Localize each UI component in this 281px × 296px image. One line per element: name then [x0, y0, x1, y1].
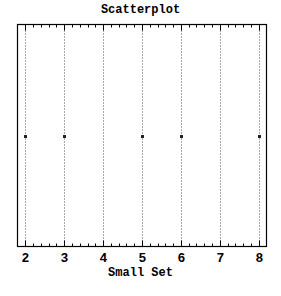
data-point: [63, 135, 66, 138]
data-point: [24, 135, 27, 138]
data-point: [141, 135, 144, 138]
x-tick-label: 2: [22, 251, 30, 266]
scatterplot-chart: Scatterplot 2345678 Small Set: [0, 0, 281, 296]
x-tick-label: 5: [139, 251, 147, 266]
x-tick-label: 6: [178, 251, 186, 266]
plot-area: 2345678: [0, 0, 281, 296]
data-point: [258, 135, 261, 138]
x-tick-label: 7: [217, 251, 225, 266]
x-tick-label: 4: [100, 251, 108, 266]
x-axis-label: Small Set: [0, 266, 281, 280]
x-tick-label: 3: [61, 251, 69, 266]
x-tick-label: 8: [256, 251, 264, 266]
data-point: [180, 135, 183, 138]
